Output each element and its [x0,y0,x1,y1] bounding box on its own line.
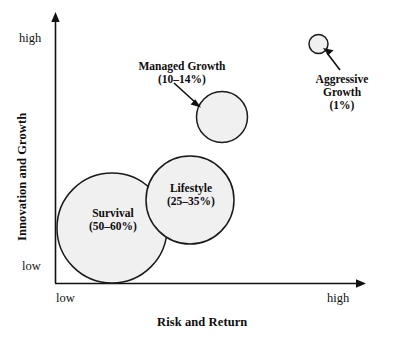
x-axis-arrowhead [356,279,366,288]
chart-canvas [0,0,395,340]
callout-label-managed-growth: Managed Growth (10–14%) [123,60,241,86]
x-axis-tick-high: high [327,291,349,305]
y-axis-arrowhead [51,12,59,22]
callout-managed-growth-line1: Managed Growth [123,60,241,73]
bubble-label-lifestyle-percent: (25–35%) [143,195,239,208]
callout-managed-growth-line2: (10–14%) [123,73,241,86]
bubble-label-survival-name: Survival [92,207,134,219]
bubble-label-survival-percent: (50–60%) [63,220,163,233]
managed-growth-leader-line [174,83,196,103]
callout-aggressive-growth-line1: Aggressive [300,73,384,86]
bubble-managed-growth [197,92,248,143]
aggressive-growth-leader-line [327,53,340,70]
y-axis-title: Innovation and Growth [15,113,29,241]
bubble-label-survival: Survival (50–60%) [63,207,163,233]
x-axis-tick-low: low [56,291,75,305]
bubble-label-lifestyle: Lifestyle (25–35%) [143,182,239,208]
callout-aggressive-growth-line2: Growth [300,86,384,99]
bubble-chart: high low low high Innovation and Growth … [0,0,395,340]
callout-label-aggressive-growth: Aggressive Growth (1%) [300,73,384,112]
bubble-label-lifestyle-name: Lifestyle [170,182,212,194]
y-axis-tick-high: high [19,31,41,45]
y-axis-tick-low: low [22,259,41,273]
callout-aggressive-growth-line3: (1%) [300,99,384,112]
x-axis-title: Risk and Return [157,315,247,329]
